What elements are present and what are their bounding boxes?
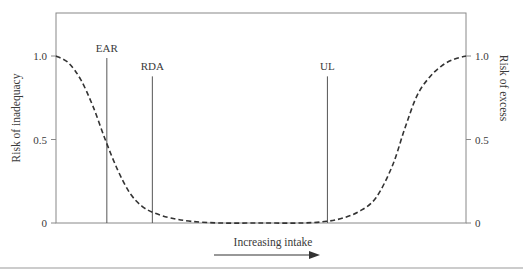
y-axis-label-right: Risk of excess xyxy=(498,55,510,122)
chart: 00.51.0 00.51.0 EARRDAUL Risk of inadequ… xyxy=(0,0,523,274)
left-axis-ticks: 00.51.0 xyxy=(33,50,56,229)
reference-label-rda: RDA xyxy=(141,60,164,72)
x-axis-label: Increasing intake xyxy=(234,236,313,249)
y-axis-label-left: Risk of inadequacy xyxy=(10,73,23,162)
left-tick-label: 0.5 xyxy=(33,134,47,146)
right-tick-label: 0.5 xyxy=(475,134,489,146)
right-axis-ticks: 00.51.0 xyxy=(466,50,489,229)
risk-curve xyxy=(56,56,466,223)
right-tick-label: 1.0 xyxy=(475,50,489,62)
reference-label-ear: EAR xyxy=(96,42,119,54)
left-tick-label: 1.0 xyxy=(33,50,47,62)
reference-label-ul: UL xyxy=(320,60,335,72)
left-tick-label: 0 xyxy=(42,217,48,229)
intake-arrow-head xyxy=(309,251,320,259)
right-tick-label: 0 xyxy=(475,217,481,229)
